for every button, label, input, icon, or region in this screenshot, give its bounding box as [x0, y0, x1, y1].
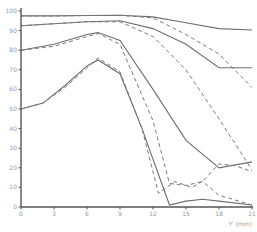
x-tick-label: 12 [149, 210, 157, 217]
y-tick-label: 20 [9, 164, 17, 171]
y-tick-label: 80 [9, 46, 17, 53]
y-tick-label: 10 [9, 183, 17, 190]
y-tick-label: 60 [9, 85, 17, 92]
x-tick-label: 18 [215, 210, 223, 217]
y-tick-label: 70 [9, 66, 17, 73]
line-chart: 0102030405060708090100 036912151821 Y' (… [0, 0, 257, 232]
y-tick-label: 50 [9, 105, 17, 112]
x-tick-label: 3 [52, 210, 56, 217]
curve-3-dashed-line [21, 34, 252, 186]
curve-1-dashed-line [21, 15, 252, 87]
curve-1-solid-line [21, 15, 252, 30]
x-tick-label: 6 [85, 210, 89, 217]
x-tick-label: 9 [118, 210, 122, 217]
series-layer [21, 15, 252, 205]
axes: 0102030405060708090100 036912151821 Y' (… [6, 7, 256, 227]
curve-4-dashed-line [21, 58, 252, 205]
y-tick-label: 0 [13, 203, 17, 210]
y-tick-label: 40 [9, 125, 17, 132]
x-axis-ticks: 036912151821 [19, 207, 256, 217]
curve-4-solid-line [21, 60, 252, 205]
y-tick-label: 30 [9, 144, 17, 151]
x-axis-title: Y' (mm) [227, 220, 252, 227]
x-tick-label: 21 [248, 210, 256, 217]
y-tick-label: 90 [9, 27, 17, 34]
x-tick-label: 0 [19, 210, 23, 217]
y-axis-ticks: 0102030405060708090100 [6, 7, 21, 210]
x-tick-label: 15 [182, 210, 190, 217]
y-tick-label: 100 [6, 7, 18, 14]
